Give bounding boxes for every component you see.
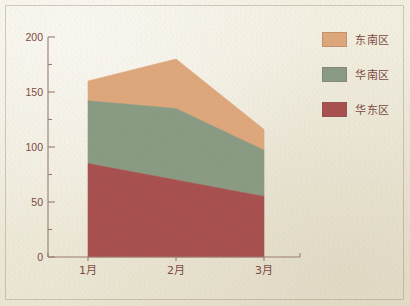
y-tick-label: 100 [25, 141, 43, 153]
figure-page: 050100150200 1月2月3月 东南区华南区华东区 [0, 0, 410, 306]
x-tick-label: 3月 [255, 264, 273, 277]
chart-legend: 东南区华南区华东区 [322, 30, 406, 135]
chart-areas [88, 59, 264, 257]
legend-swatch-icon [322, 102, 347, 117]
legend-swatch-icon [322, 32, 347, 47]
y-axis-tick-labels: 050100150200 [25, 31, 43, 263]
x-axis-tick-labels: 1月2月3月 [79, 264, 273, 277]
legend-item-label: 华南区 [355, 66, 390, 82]
legend-item-label: 华东区 [355, 101, 390, 117]
legend-item[interactable]: 东南区 [322, 30, 406, 48]
legend-item[interactable]: 华东区 [322, 100, 406, 118]
y-tick-label: 50 [31, 196, 43, 208]
x-tick-label: 1月 [79, 264, 97, 277]
y-tick-label: 0 [37, 251, 43, 263]
x-tick-label: 2月 [167, 264, 185, 277]
legend-swatch-icon [322, 67, 347, 82]
y-tick-label: 200 [25, 31, 43, 43]
legend-item-label: 东南区 [355, 31, 390, 47]
legend-item[interactable]: 华南区 [322, 65, 406, 83]
y-tick-label: 150 [25, 86, 43, 98]
